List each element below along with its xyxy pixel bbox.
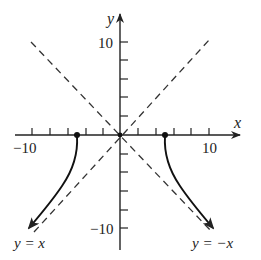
graph-canvas: x y −10 10 10 −10 y = x y = −x [0, 0, 261, 260]
y-tick-label-neg10: −10 [90, 221, 113, 237]
x-axis [15, 128, 240, 135]
vertex-left-dot [74, 132, 80, 138]
asymptote-label-y-eq-x: y = x [12, 235, 45, 251]
y-axis [120, 14, 128, 250]
y-tick-label-10: 10 [98, 35, 113, 51]
vertex-right-dot [162, 132, 168, 138]
x-tick-label-neg10: −10 [13, 140, 36, 156]
x-axis-label: x [233, 114, 241, 131]
asymptote-y-eq-neg-x [31, 42, 212, 232]
y-axis-label: y [105, 10, 115, 28]
hyperbola [29, 136, 213, 228]
asymptote-label-y-eq-neg-x: y = −x [190, 235, 233, 251]
x-tick-label-10: 10 [202, 140, 217, 156]
origin-dot [118, 133, 123, 138]
